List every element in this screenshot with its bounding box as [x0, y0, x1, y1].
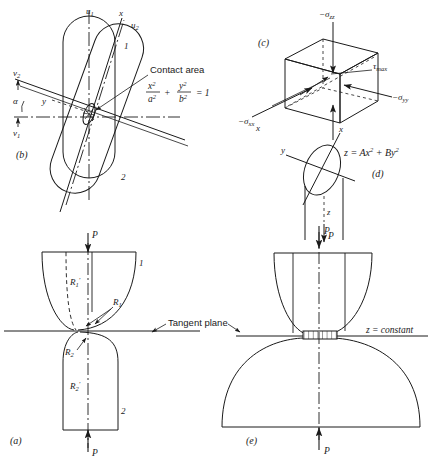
body-label-2-b: 2	[121, 172, 126, 182]
force-label-P-top-e: P	[323, 226, 330, 236]
axis-y-d	[286, 155, 355, 181]
radius-label-R2: R2	[64, 347, 75, 358]
eq-plus: +	[164, 88, 170, 98]
contact-region-e	[303, 331, 337, 339]
panel-d: x y z = Ax2 + By2 z P (d)	[280, 124, 400, 242]
stress-arrow-yy	[344, 85, 392, 97]
axis-label-v1: v1	[13, 128, 20, 139]
svg-text:z = Ax2 + By2: z = Ax2 + By2	[343, 146, 400, 158]
tangent-plane-annotation: Tangent plane	[152, 317, 240, 332]
radius-label-R2-prime: R2′	[69, 380, 81, 392]
axis-y	[15, 79, 188, 146]
axis-x	[60, 18, 122, 212]
panel-e: P P z = constant (e)	[222, 226, 428, 456]
contact-ellipse-equation: x2 a2 + y2 b2 = 1	[146, 80, 210, 105]
axis-label-x-d: x	[338, 124, 343, 134]
body-2-outline-e	[222, 338, 420, 427]
angle-label-alpha: α	[13, 96, 18, 106]
stress-label-yy: −σyy	[392, 92, 408, 103]
tangent-leader-right	[228, 324, 240, 332]
contact-area-leader	[96, 75, 148, 110]
z-constant-label: z = constant	[365, 325, 413, 335]
axis-label-u1: u1	[86, 6, 94, 17]
panel-label-b: (b)	[16, 149, 28, 161]
radius-label-R1-prime: R1′	[69, 276, 81, 288]
eq-num-y: y2	[178, 80, 187, 92]
axis-label-y: y	[41, 96, 46, 106]
axis-label-y-d: y	[280, 145, 285, 155]
paraboloid-equation: z = Ax2 + By2	[343, 146, 400, 158]
axis-label-z-d: z	[326, 207, 331, 217]
force-label-P-bottom-e: P	[323, 446, 330, 456]
force-label-P-top-a: P	[91, 230, 98, 240]
panel-b: u1 x u2 v1 v2 α y	[13, 6, 210, 212]
tangent-plane-label: Tangent plane	[168, 317, 228, 328]
eq-den-b: b2	[179, 93, 188, 105]
panel-a: 1 2 P P R1′ R1 R2 R2′ (a)	[4, 230, 200, 458]
force-label-P-bottom-a: P	[91, 448, 98, 458]
panel-label-a: (a)	[10, 435, 22, 447]
stress-label-xx: −σxx	[238, 116, 254, 127]
eq-num-x: x2	[147, 80, 156, 92]
axis-v1	[14, 117, 180, 127]
panel-c: −σzz −σxx x −σyy τmax (c)	[238, 9, 408, 140]
radius-leader-R1b	[86, 309, 111, 326]
radius-leader-R2	[77, 338, 86, 350]
panel-label-d: (d)	[372, 168, 384, 180]
axis-label-x-cube: x	[255, 123, 260, 133]
axis-label-v2: v2	[13, 68, 21, 79]
radius-label-R1: R1	[112, 297, 122, 308]
body-1-outline-a	[42, 252, 136, 330]
contact-ellipse-d	[296, 140, 347, 201]
panel-label-e: (e)	[246, 435, 258, 447]
hertz-contact-figure: u1 x u2 v1 v2 α y	[0, 0, 432, 463]
panel-label-c: (c)	[258, 37, 270, 49]
stress-arrow-xx	[252, 78, 330, 117]
axis-label-x: x	[118, 8, 123, 18]
body-label-2-a: 2	[121, 406, 126, 416]
stress-label-zz: −σzz	[319, 9, 335, 20]
contact-area-label: Contact area	[150, 64, 205, 75]
body-label-1-b: 1	[124, 41, 129, 51]
body-label-1-a: 1	[139, 258, 144, 268]
tau-max-label: τmax	[373, 61, 387, 72]
body-1-outline-e	[274, 253, 372, 334]
eq-den-a: a2	[148, 93, 157, 105]
axis-label-u2: u2	[131, 20, 140, 31]
eq-equals-one: = 1	[196, 88, 210, 98]
